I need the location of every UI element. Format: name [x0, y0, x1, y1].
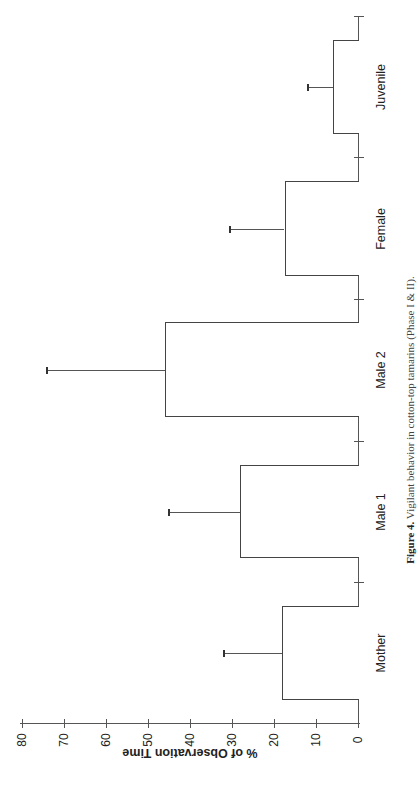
value-tick — [22, 719, 23, 728]
category-tick — [354, 299, 364, 300]
category-tick — [354, 441, 364, 442]
bar-female — [285, 181, 360, 276]
category-tick — [354, 16, 364, 17]
error-bar — [169, 512, 240, 513]
bar-juvenile — [333, 40, 359, 134]
category-label: Juvenile — [374, 37, 388, 137]
value-tick-label: 70 — [58, 728, 70, 752]
error-bar — [308, 87, 333, 88]
error-bar-cap — [46, 367, 48, 374]
error-bar-cap — [307, 84, 309, 91]
category-label: Male 1 — [374, 462, 388, 562]
value-tick — [64, 719, 65, 728]
category-label: Male 2 — [374, 320, 388, 420]
value-tick-label: 80 — [16, 728, 28, 752]
category-label: Mother — [374, 603, 388, 703]
error-bar-cap — [168, 509, 170, 516]
category-label: Female — [374, 179, 388, 279]
value-tick-label: 10 — [310, 728, 322, 752]
caption-label: Figure 4. — [404, 522, 416, 564]
error-bar — [47, 370, 165, 371]
value-tick — [358, 719, 359, 728]
figure-caption: Figure 4. Vigilant behavior in cotton-to… — [404, 220, 416, 620]
value-tick — [274, 719, 275, 728]
value-tick — [232, 719, 233, 728]
error-bar-cap — [223, 650, 225, 657]
value-tick — [316, 719, 317, 728]
error-bar — [230, 229, 285, 230]
value-axis-title: % of Observation Time — [90, 746, 290, 760]
bar-male-1 — [240, 465, 359, 558]
category-tick — [354, 582, 364, 583]
category-tick — [354, 157, 364, 158]
bar-male-2 — [165, 322, 359, 417]
value-tick — [190, 719, 191, 728]
value-tick — [148, 719, 149, 728]
error-bar-cap — [229, 226, 231, 233]
error-bar — [224, 653, 283, 654]
value-tick-label: 0 — [352, 728, 364, 752]
caption-text: Vigilant behavior in cotton-top tamarins… — [404, 276, 416, 519]
value-tick — [106, 719, 107, 728]
bar-mother — [282, 606, 359, 700]
